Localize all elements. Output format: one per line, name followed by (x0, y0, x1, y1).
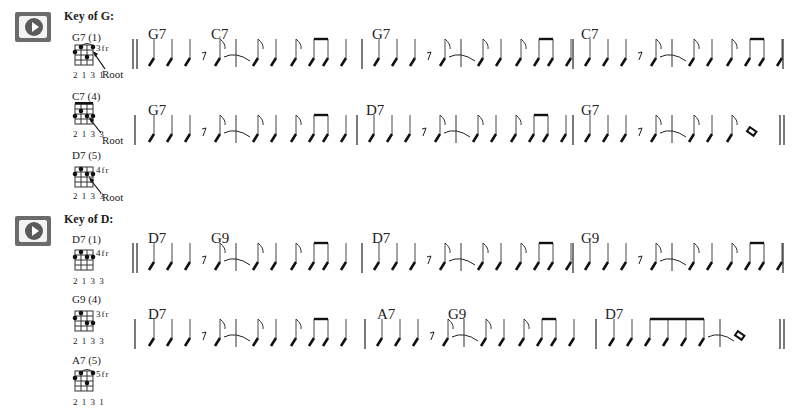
rhythm-notation (0, 0, 793, 417)
